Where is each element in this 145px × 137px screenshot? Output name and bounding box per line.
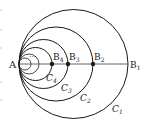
point-b3-dot <box>66 62 70 66</box>
ellipsis: ··· <box>29 52 37 61</box>
label-b3: B3 <box>69 52 80 63</box>
label-c4: C4 <box>46 73 57 84</box>
label-c3: C3 <box>61 83 72 94</box>
nested-circles-diagram: A ··· B4 B3 B2 B1 C4 C3 C2 C1 <box>0 0 145 137</box>
left-edge-marks <box>0 10 2 100</box>
label-b4: B4 <box>53 52 64 63</box>
label-c1: C1 <box>112 104 123 115</box>
label-b2: B2 <box>94 52 105 63</box>
label-c2: C2 <box>80 93 91 104</box>
label-b1: B1 <box>130 60 140 71</box>
point-b4-dot <box>50 62 54 66</box>
label-a: A <box>8 59 17 70</box>
diagram-canvas: A ··· B4 B3 B2 B1 C4 C3 C2 C1 <box>0 0 145 137</box>
point-b2-dot <box>91 62 95 66</box>
